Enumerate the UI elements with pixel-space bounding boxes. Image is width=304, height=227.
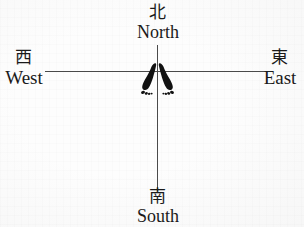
direction-label-east-latin: East bbox=[256, 68, 304, 87]
direction-label-north-cjk: 北 bbox=[118, 4, 198, 21]
direction-label-west: 西 West bbox=[0, 49, 48, 87]
direction-label-north: 北 North bbox=[118, 4, 198, 41]
compass-diagram: 北 North 南 South 西 West 東 East bbox=[0, 0, 304, 227]
direction-label-south-cjk: 南 bbox=[118, 188, 198, 205]
direction-label-west-cjk: 西 bbox=[0, 49, 48, 66]
direction-label-south-latin: South bbox=[118, 207, 198, 225]
footprints-icon bbox=[136, 62, 179, 102]
direction-label-west-latin: West bbox=[0, 68, 48, 87]
direction-label-east: 東 East bbox=[256, 49, 304, 87]
direction-label-south: 南 South bbox=[118, 188, 198, 225]
direction-label-east-cjk: 東 bbox=[256, 49, 304, 66]
direction-label-north-latin: North bbox=[118, 23, 198, 41]
